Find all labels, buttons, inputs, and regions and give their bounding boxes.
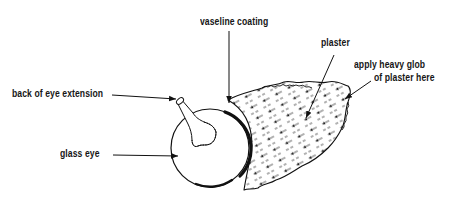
label-plaster: plaster (321, 36, 350, 48)
arrow-back-of-eye (112, 95, 176, 99)
glass-eye-sphere (171, 109, 251, 187)
label-apply-line2: of plaster here (374, 71, 435, 83)
arrow-glass-eye (113, 155, 178, 156)
diagram-canvas: vaseline coating plaster apply heavy glo… (0, 0, 450, 213)
label-apply-line1: apply heavy glob (354, 58, 425, 70)
label-glass-eye: glass eye (60, 147, 100, 159)
diagram-illustration (0, 0, 450, 213)
label-back-of-eye-extension: back of eye extension (12, 87, 103, 99)
label-vaseline-coating: vaseline coating (200, 15, 268, 27)
